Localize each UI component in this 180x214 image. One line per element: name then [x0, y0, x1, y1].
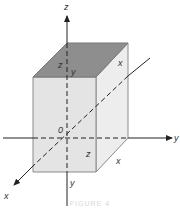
diagram-svg: z y x 0 z y x z x y: [0, 0, 180, 214]
z-axis-label: z: [63, 2, 69, 12]
box-axes-diagram: z y x 0 z y x z x y FIGURE 4: [0, 0, 180, 214]
bottom-y-label: y: [69, 178, 75, 188]
x-axis-upper: [128, 58, 150, 76]
front-z-label: z: [85, 149, 91, 159]
origin-label: 0: [58, 125, 63, 135]
top-face-x-label: x: [117, 58, 123, 68]
top-face-z-label: z: [57, 60, 63, 70]
figure-caption: FIGURE 4: [0, 200, 180, 207]
bottom-x-label: x: [115, 156, 121, 166]
y-axis-label: y: [173, 133, 179, 143]
x-axis-lower: [14, 166, 33, 185]
top-face-y-label: y: [70, 67, 76, 77]
